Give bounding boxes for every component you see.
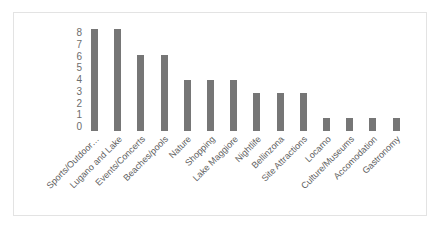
y-tick-label: 8 xyxy=(76,29,82,37)
y-tick-label: 2 xyxy=(76,100,82,108)
bar[interactable] xyxy=(91,29,98,131)
x-axis-labels: Sports/Outdoor…Lugano and LakeEvents/Con… xyxy=(83,132,408,216)
plot-area xyxy=(83,29,408,131)
bar-chart-figure: 876543210 Sports/Outdoor…Lugano and Lake… xyxy=(13,12,427,216)
y-tick-label: 4 xyxy=(76,76,82,84)
y-axis: 876543210 xyxy=(66,29,82,131)
y-tick-label: 0 xyxy=(76,123,82,131)
bar-slot xyxy=(83,29,106,131)
y-tick-label: 3 xyxy=(76,88,82,96)
bars-layer xyxy=(83,29,408,131)
y-tick-label: 7 xyxy=(76,41,82,49)
y-tick-label: 5 xyxy=(76,64,82,72)
y-tick-label: 1 xyxy=(76,111,82,119)
y-tick-label: 6 xyxy=(76,53,82,61)
